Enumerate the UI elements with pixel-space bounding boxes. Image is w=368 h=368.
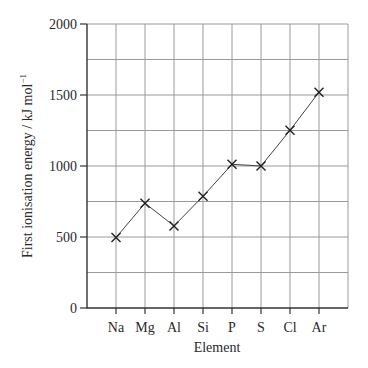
x-tick-label: Mg [135, 320, 154, 335]
y-tick-label: 0 [70, 301, 77, 316]
x-tick-label: Al [167, 320, 181, 335]
chart-canvas: 0500100015002000 NaMgAlSiPSClAr Element … [0, 0, 368, 368]
x-tick-label: Na [108, 320, 125, 335]
y-tick-label: 1500 [49, 88, 77, 103]
x-tick-label: Si [197, 320, 209, 335]
ionisation-energy-chart: 0500100015002000 NaMgAlSiPSClAr Element … [0, 0, 368, 368]
x-axis-ticks: NaMgAlSiPSClAr [108, 308, 327, 335]
data-series [112, 88, 324, 242]
grid-lines [87, 24, 348, 308]
y-axis-ticks: 0500100015002000 [49, 17, 87, 316]
y-axis-title-text: First ionisation energy / kJ mol [20, 84, 35, 258]
y-axis-title-superscript: −1 [18, 74, 28, 84]
y-axis-title: First ionisation energy / kJ mol−1 [18, 74, 35, 258]
x-tick-label: P [228, 320, 236, 335]
x-tick-label: S [257, 320, 265, 335]
y-tick-label: 1000 [49, 159, 77, 174]
y-tick-label: 500 [56, 230, 77, 245]
x-tick-label: Cl [283, 320, 296, 335]
x-axis-title: Element [194, 340, 241, 355]
series-line [116, 92, 319, 237]
y-tick-label: 2000 [49, 17, 77, 32]
x-tick-label: Ar [312, 320, 327, 335]
